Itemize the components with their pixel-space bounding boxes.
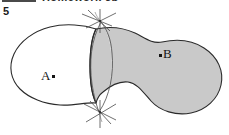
region-a-point-marker <box>52 75 55 78</box>
region-a-shape <box>11 25 96 105</box>
set-diagram-figure: A B <box>0 0 229 135</box>
figure-page: Homework 5b 5 <box>0 0 229 135</box>
region-a-label-text: A <box>41 68 51 83</box>
region-b-point-marker <box>159 54 162 57</box>
region-b-label-text: B <box>163 46 172 61</box>
intersection-bottom-ticks <box>84 100 116 128</box>
